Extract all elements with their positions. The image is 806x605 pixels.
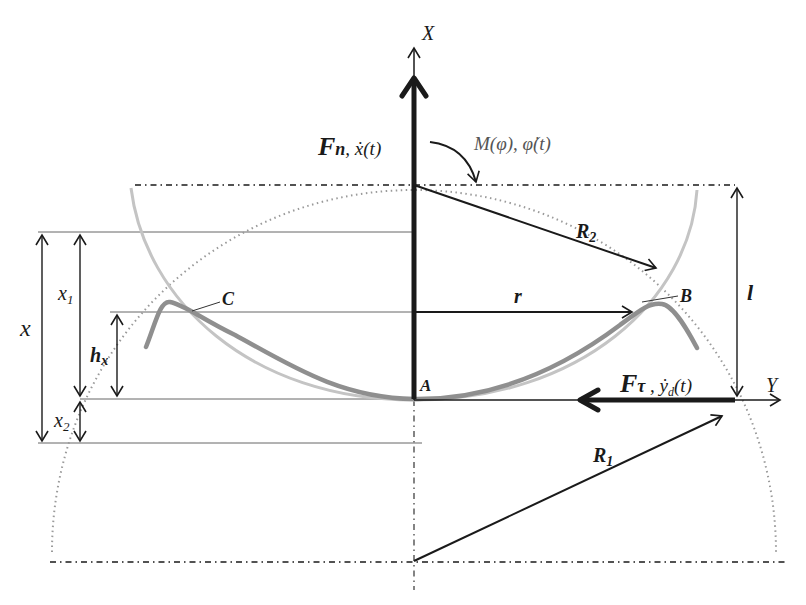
x2-label: x2 — [53, 409, 70, 434]
r1-label: R1 — [592, 444, 613, 469]
tangential-force-label: Fτ , ẏd(t) — [619, 369, 692, 399]
r1-arrow — [414, 416, 722, 561]
hx-label: hx — [90, 344, 108, 368]
normal-force-label: Fn, ẋ(t) — [317, 132, 381, 161]
x-axis-label: X — [421, 22, 435, 44]
point-c-label: C — [222, 289, 235, 309]
r2-arrow — [414, 185, 656, 268]
point-b-label: B — [679, 286, 692, 306]
y-axis-label: Y — [766, 374, 779, 396]
x-dimension-label: x — [19, 315, 31, 341]
force-diagram: X Y Fn, ẋ(t) M(φ), φ̇(t) Fτ , ẏd(t) A B … — [0, 0, 806, 605]
r-label: r — [514, 285, 522, 307]
r2-label: R2 — [575, 220, 596, 245]
x1-label: x1 — [57, 282, 73, 307]
b-leader-line — [642, 296, 678, 302]
l-label: l — [747, 280, 754, 305]
extension-lines — [38, 232, 422, 443]
c-leader-line — [192, 302, 220, 311]
moment-label: M(φ), φ̇(t) — [473, 133, 551, 155]
moment-arrow — [430, 142, 476, 182]
point-a-label: A — [419, 376, 431, 395]
